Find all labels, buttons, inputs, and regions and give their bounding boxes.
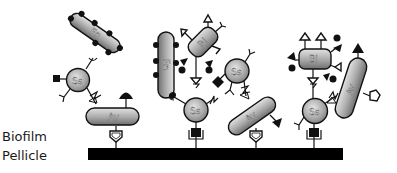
cell-ss4: Ss <box>294 92 338 148</box>
biofilm-label: Biofilm <box>2 129 47 144</box>
biofilm-diagram: Biofilm Pellicle Fn Ss <box>0 0 397 173</box>
cell-fn2: Fn <box>153 32 179 98</box>
cell-label-ss4: Ss <box>309 107 320 117</box>
pellicle-label: Pellicle <box>2 148 47 163</box>
cell-label-bl2: Bl <box>309 54 318 64</box>
cell-label-ss2: Ss <box>190 106 201 116</box>
cell-label-ss1: Ss <box>72 76 83 86</box>
av1-pellicle-adhesin <box>110 126 122 148</box>
cell-av3: Av <box>333 43 380 120</box>
cell-ss2: Ss <box>169 93 218 148</box>
cell-ss1: Ss <box>53 58 101 104</box>
cell-label-ss3: Ss <box>231 67 242 77</box>
cell-label-fn2: Fn <box>161 59 171 70</box>
cell-fn1: Fn <box>63 6 127 60</box>
pellicle-bar <box>88 148 343 160</box>
cell-av2: Av <box>225 94 282 148</box>
cell-bl2: Bl <box>287 33 342 99</box>
cell-label-av1: Av <box>108 112 120 122</box>
cell-ss3: Ss <box>212 49 255 99</box>
